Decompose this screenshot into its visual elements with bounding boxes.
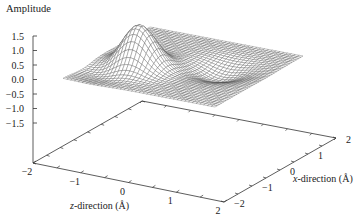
z-tick-label: 2 (216, 205, 221, 216)
z-direction-label: z-direction (Å) (69, 200, 129, 212)
x-tick-label: 2 (346, 134, 351, 145)
z-tick-label: −2 (22, 166, 33, 177)
z-tick-label: −1 (69, 176, 80, 187)
amplitude-tick-label: −0.5 (6, 89, 24, 100)
x-tick-label: −1 (262, 182, 273, 193)
amplitude-ticks: 1.51.00.50.0−0.5−1.0−1.5 (6, 31, 37, 129)
amplitude-tick-label: 0.0 (12, 74, 25, 85)
amplitude-tick-label: 1.0 (12, 45, 25, 56)
amplitude-tick-label: 0.5 (12, 60, 25, 71)
amplitude-tick-label: −1.5 (6, 118, 24, 129)
x-direction-label: x-direction (Å) (292, 173, 353, 185)
x-tick-label: 1 (318, 150, 323, 161)
base-axes (33, 101, 336, 202)
surface-plot: Amplitude 1.51.00.50.0−0.5−1.0−1.5 −2−10… (0, 0, 360, 216)
z-tick-label: 0 (120, 186, 125, 197)
x-tick-label: −2 (234, 198, 245, 209)
amplitude-axis-title: Amplitude (6, 3, 51, 14)
base-ticks: −2−1012−2−1012 (22, 101, 351, 216)
z-tick-label: 1 (168, 195, 173, 206)
amplitude-tick-label: −1.0 (6, 103, 24, 114)
amplitude-tick-label: 1.5 (12, 31, 25, 42)
surface-mesh (63, 25, 303, 107)
